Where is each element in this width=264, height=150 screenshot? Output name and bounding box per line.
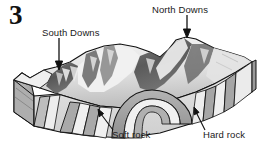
block-right-end-face (252, 60, 256, 92)
label-north-downs: North Downs (152, 4, 208, 15)
figure-canvas: 3 South Downs North Downs Soft rock Hard… (0, 0, 264, 150)
north-downs-arrow (183, 15, 190, 38)
label-south-downs: South Downs (42, 27, 100, 38)
block-diagram-illustration (0, 0, 264, 150)
figure-number: 3 (9, 2, 23, 29)
label-hard-rock: Hard rock (203, 129, 245, 140)
label-soft-rock: Soft rock (112, 129, 150, 140)
